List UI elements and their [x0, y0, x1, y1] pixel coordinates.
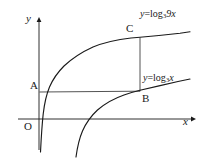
equation-label-lower-curve: y=log3x	[143, 73, 174, 84]
y-axis-label: y	[26, 13, 31, 24]
origin-label: O	[24, 121, 32, 132]
point-label-b: B	[142, 93, 149, 104]
point-label-c: C	[126, 23, 133, 34]
equation-lower-argument: x	[169, 72, 173, 83]
point-label-a: A	[30, 80, 38, 91]
logarithm-curves-figure: y x O A B C y=log39x y=log3x	[0, 0, 203, 162]
y-axis-arrow-icon	[37, 17, 42, 22]
equation-upper-function: log	[150, 8, 163, 19]
equation-upper-argument: 9x	[166, 8, 175, 19]
x-axis	[18, 116, 196, 121]
curve-log3-x	[76, 79, 190, 157]
equation-lower-function: log	[153, 72, 166, 83]
x-axis-arrow-icon	[191, 116, 196, 121]
equation-label-upper-curve: y=log39x	[140, 9, 176, 20]
segment-ab	[40, 91, 141, 92]
x-axis-label: x	[183, 116, 188, 127]
